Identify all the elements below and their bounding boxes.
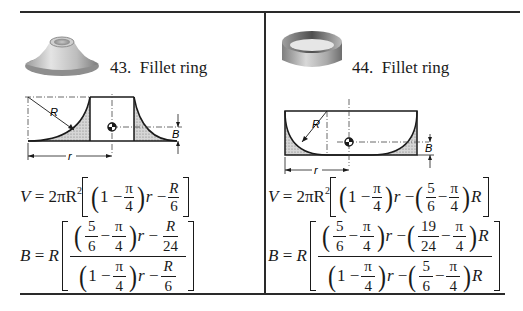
item-43-centroid-formula: B = R ( 56 − π4 )r − R24 (1 − π4 )r − R6: [20, 221, 194, 291]
fillet-ring-concave-photo: [280, 28, 344, 74]
item-number: 44.: [352, 58, 373, 77]
item-44-title: 44. Fillet ring: [352, 58, 449, 78]
label-B: B: [425, 142, 432, 154]
item-43-title: 43. Fillet ring: [110, 58, 207, 78]
item-43-panel: 43. Fillet ring R: [20, 14, 263, 292]
item-43-volume-formula: V = 2πR2 (1 − π4) r − R6: [20, 177, 189, 217]
item-title: Fillet ring: [140, 58, 208, 77]
label-R: R: [50, 106, 58, 118]
item-number: 43.: [110, 58, 131, 77]
label-B: B: [172, 128, 179, 140]
fillet-ring-convex-photo: [22, 28, 102, 78]
item-44-dimensions: B r: [282, 94, 452, 174]
item-43-cross-section-diagram: R B r: [22, 94, 182, 166]
item-44-centroid-formula: B = R ( 56 − π4 )r − ( 1924 − π4 )R (1 −…: [268, 221, 500, 291]
top-rule: [20, 11, 520, 13]
item-44-volume-formula: V = 2πR2 (1 − π4) r − (56 − π4) R: [268, 177, 489, 217]
item-44-panel: 44. Fillet ring R B r V = 2πR: [268, 14, 518, 292]
column-divider: [264, 11, 266, 295]
item-title: Fillet ring: [382, 58, 450, 77]
